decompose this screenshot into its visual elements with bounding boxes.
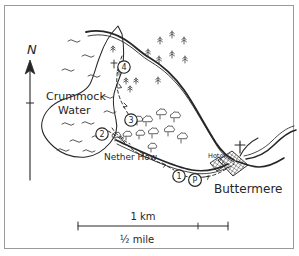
marker-2-label: 2 bbox=[99, 130, 104, 139]
marker-1[interactable]: 1 bbox=[173, 170, 185, 182]
label-hotel: Hotel bbox=[208, 152, 225, 160]
scale-bar: 1 km ½ mile bbox=[78, 211, 228, 245]
marker-2[interactable]: 2 bbox=[96, 128, 108, 140]
label-crummock-water-line2: Water bbox=[58, 104, 91, 117]
scale-label-mile: ½ mile bbox=[120, 234, 154, 245]
marker-3[interactable]: 3 bbox=[125, 114, 137, 126]
broadleaf-tree-symbols bbox=[112, 109, 188, 152]
marker-parking[interactable]: P bbox=[189, 174, 202, 187]
map-page: 4 3 2 1 P N bbox=[0, 0, 299, 256]
label-buttermere: Buttermere bbox=[214, 182, 282, 196]
church-cross-icon bbox=[235, 141, 245, 153]
hand-drawn-map-canvas: 4 3 2 1 P N bbox=[0, 0, 299, 256]
label-nether-how: Nether How bbox=[104, 152, 157, 162]
gate-cross-marks bbox=[111, 60, 117, 68]
north-arrow: N bbox=[25, 42, 37, 180]
north-label: N bbox=[27, 42, 37, 57]
marker-3-label: 3 bbox=[128, 116, 133, 125]
marker-4-label: 4 bbox=[121, 63, 126, 72]
scale-label-km: 1 km bbox=[130, 211, 155, 222]
footpath-direction-arrows bbox=[118, 84, 209, 179]
marker-4[interactable]: 4 bbox=[118, 61, 130, 73]
route-marker-group: 4 3 2 1 P bbox=[96, 61, 202, 187]
marker-1-label: 1 bbox=[176, 172, 181, 181]
label-crummock-water-line1: Crummock bbox=[46, 90, 106, 103]
parking-symbol-label: P bbox=[193, 176, 198, 185]
